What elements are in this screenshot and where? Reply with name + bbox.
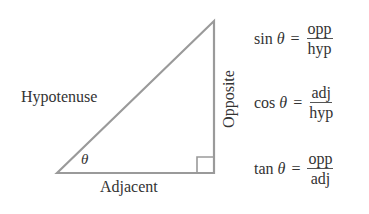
opposite-label: Opposite bbox=[220, 59, 238, 139]
tangent-formula: tan θ = opp adj bbox=[254, 150, 333, 187]
theta-symbol: θ bbox=[279, 94, 287, 112]
adjacent-label: Adjacent bbox=[100, 178, 158, 196]
numerator: adj bbox=[310, 84, 332, 103]
numerator: opp bbox=[307, 20, 333, 39]
fraction: opp hyp bbox=[307, 20, 333, 57]
cosine-formula: cos θ = adj hyp bbox=[254, 84, 333, 121]
fraction: adj hyp bbox=[309, 84, 333, 121]
function-name: tan bbox=[254, 160, 274, 178]
function-name: sin bbox=[254, 30, 273, 48]
denominator: adj bbox=[311, 169, 331, 187]
right-angle-marker bbox=[197, 157, 214, 173]
theta-symbol: θ bbox=[278, 160, 286, 178]
hypotenuse-label: Hypotenuse bbox=[21, 88, 97, 106]
equals-sign: = bbox=[293, 94, 302, 112]
denominator: hyp bbox=[308, 39, 332, 57]
denominator: hyp bbox=[309, 103, 333, 121]
sine-formula: sin θ = opp hyp bbox=[254, 20, 333, 57]
angle-theta-label: θ bbox=[81, 151, 88, 168]
function-name: cos bbox=[254, 94, 275, 112]
fraction: opp adj bbox=[307, 150, 333, 187]
theta-symbol: θ bbox=[277, 30, 285, 48]
equals-sign: = bbox=[291, 30, 300, 48]
numerator: opp bbox=[307, 150, 333, 169]
equals-sign: = bbox=[291, 160, 300, 178]
